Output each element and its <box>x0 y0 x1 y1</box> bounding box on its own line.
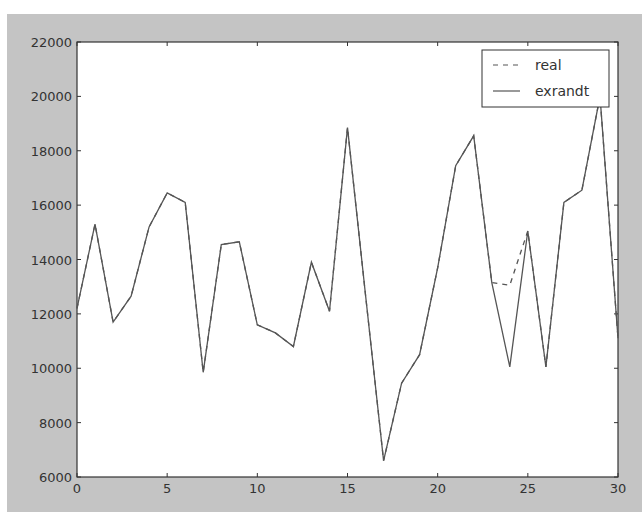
legend-label-exrandt: exrandt <box>535 83 590 99</box>
x-tick-label: 10 <box>249 481 266 496</box>
y-tick-label: 22000 <box>31 35 72 50</box>
x-tick-label: 15 <box>339 481 356 496</box>
y-tick-label: 18000 <box>31 144 72 159</box>
line-chart: 051015202530 600080001000012000140001600… <box>0 0 642 528</box>
y-tick-label: 14000 <box>31 253 72 268</box>
legend-label-real: real <box>535 57 562 73</box>
x-tick-label: 20 <box>429 481 446 496</box>
y-tick-label: 6000 <box>39 470 72 485</box>
x-tick-label: 5 <box>163 481 171 496</box>
y-tick-label: 16000 <box>31 198 72 213</box>
legend: real exrandt <box>482 50 609 107</box>
y-tick-label: 8000 <box>39 416 72 431</box>
y-tick-label: 20000 <box>31 89 72 104</box>
x-tick-label: 25 <box>520 481 537 496</box>
x-tick-label: 30 <box>610 481 627 496</box>
y-tick-label: 12000 <box>31 307 72 322</box>
x-tick-label: 0 <box>73 481 81 496</box>
y-tick-label: 10000 <box>31 361 72 376</box>
